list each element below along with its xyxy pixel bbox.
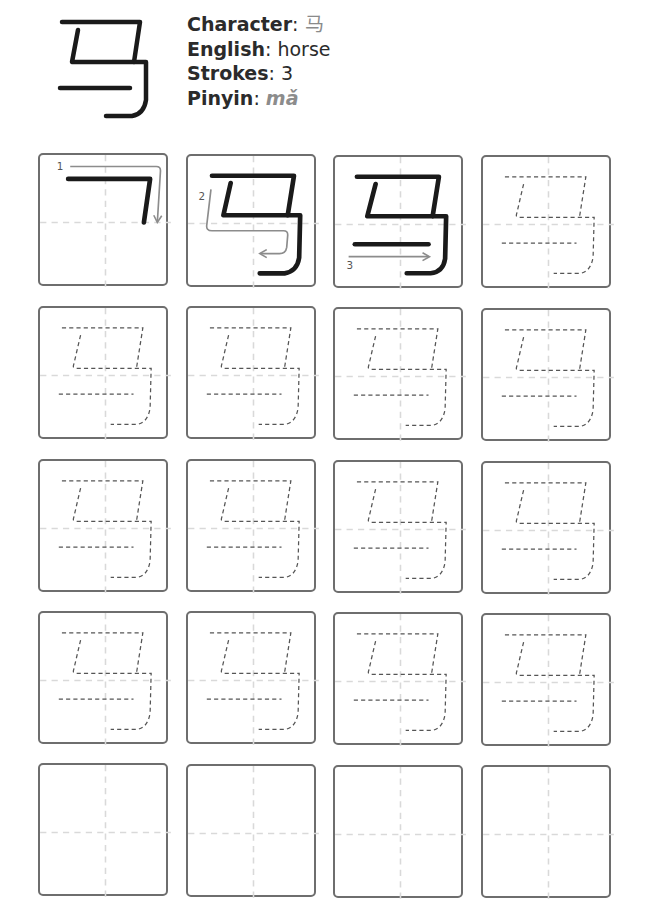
- separator: :: [265, 38, 277, 60]
- pinyin-row: Pinyin: mǎ: [187, 86, 331, 111]
- blank-cell[interactable]: [333, 765, 463, 898]
- trace-cell[interactable]: [38, 459, 168, 592]
- blank-cell[interactable]: [481, 765, 611, 898]
- trace-cell[interactable]: [333, 460, 463, 593]
- blank-cell[interactable]: [38, 763, 168, 896]
- character-value: 马: [305, 13, 324, 35]
- separator: :: [292, 13, 304, 35]
- pinyin-value: mǎ: [266, 87, 299, 109]
- character-row: Character: 马: [187, 12, 331, 37]
- trace-cell[interactable]: [333, 307, 463, 440]
- hero-character-glyph: [50, 12, 160, 122]
- pinyin-label: Pinyin: [187, 87, 253, 109]
- separator: :: [269, 62, 281, 84]
- stroke-order-cell-2: 2: [186, 154, 316, 287]
- stroke-order-cell-3: 3: [333, 155, 463, 288]
- trace-cell[interactable]: [481, 461, 611, 594]
- separator: :: [253, 87, 265, 109]
- trace-cell[interactable]: [481, 155, 611, 288]
- trace-cell[interactable]: [186, 306, 316, 439]
- strokes-value: 3: [281, 62, 293, 84]
- blank-cell[interactable]: [186, 764, 316, 897]
- trace-cell[interactable]: [186, 459, 316, 592]
- trace-cell[interactable]: [481, 308, 611, 441]
- character-label: Character: [187, 13, 292, 35]
- trace-cell[interactable]: [38, 611, 168, 744]
- trace-cell[interactable]: [38, 306, 168, 439]
- character-info: Character: 马 English: horse Strokes: 3 P…: [187, 12, 331, 110]
- step-number-2: 2: [198, 189, 205, 201]
- stroke-order-cell-1: 1: [38, 153, 168, 286]
- trace-cell[interactable]: [481, 613, 611, 746]
- english-row: English: horse: [187, 37, 331, 62]
- step-number-3: 3: [346, 259, 353, 271]
- english-label: English: [187, 38, 265, 60]
- trace-cell[interactable]: [333, 612, 463, 745]
- step-number-1: 1: [56, 159, 63, 171]
- english-value: horse: [277, 38, 330, 60]
- strokes-label: Strokes: [187, 62, 269, 84]
- trace-cell[interactable]: [186, 611, 316, 744]
- strokes-row: Strokes: 3: [187, 61, 331, 86]
